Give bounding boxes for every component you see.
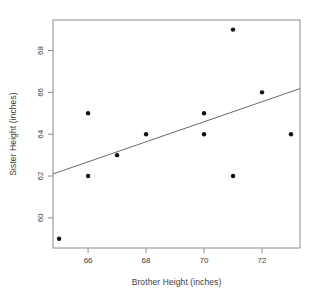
data-point — [260, 90, 264, 94]
scatter-plot: 666870726062646668 — [0, 0, 316, 302]
data-point — [202, 111, 206, 115]
data-point — [231, 27, 235, 31]
x-tick-label: 70 — [200, 256, 209, 265]
data-point — [86, 111, 90, 115]
x-tick-label: 72 — [258, 256, 267, 265]
y-tick-label: 60 — [37, 213, 46, 222]
data-point — [86, 174, 90, 178]
data-point — [289, 132, 293, 136]
y-tick-label: 66 — [37, 87, 46, 96]
data-point — [202, 132, 206, 136]
x-tick-label: 68 — [142, 256, 151, 265]
y-tick-label: 68 — [37, 46, 46, 55]
data-point — [144, 132, 148, 136]
plot-box — [53, 20, 300, 248]
figure-canvas: Sister Height (inches) 66687072606264666… — [0, 0, 316, 302]
x-axis-title: Brother Height (inches) — [53, 277, 300, 287]
data-point — [115, 153, 119, 157]
y-tick-label: 64 — [37, 129, 46, 138]
data-point — [57, 237, 61, 241]
data-point — [231, 174, 235, 178]
x-tick-label: 66 — [84, 256, 93, 265]
y-tick-label: 62 — [37, 171, 46, 180]
